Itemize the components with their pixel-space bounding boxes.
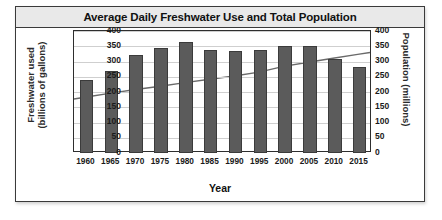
x-axis-tick-label: 1980: [171, 156, 199, 166]
chart-bar: [229, 51, 243, 153]
y-axis-left-title: Freshwater used (billions of gallons): [25, 29, 47, 141]
y-axis-left-tick-label: 150: [95, 102, 121, 111]
x-axis-tick-label: 1960: [71, 156, 99, 166]
y-axis-left-tick-label: 250: [95, 71, 121, 80]
x-axis-tick-label: 1995: [245, 156, 273, 166]
y-axis-left-tick-label: 350: [95, 41, 121, 50]
chart-bar: [154, 48, 168, 153]
y-axis-right-title: Population (millions): [401, 24, 412, 136]
x-axis-tick-label: 2010: [320, 156, 348, 166]
y-axis-right-tick-label: 200: [375, 87, 401, 96]
y-axis-right-tick-label: 400: [375, 26, 401, 35]
y-axis-right-tick-label: 50: [375, 132, 401, 141]
y-axis-right-tick-label: 100: [375, 117, 401, 126]
x-axis-tick-label: 2005: [295, 156, 323, 166]
x-axis-tick-label: 2000: [270, 156, 298, 166]
x-axis-title: Year: [16, 182, 424, 194]
y-axis-left-title-line2: (billions of gallons): [36, 29, 47, 141]
y-axis-right-tick-label: 0: [375, 148, 401, 157]
y-axis-right-tick-label: 150: [375, 102, 401, 111]
x-axis-tick-label: 1985: [196, 156, 224, 166]
y-axis-right-tick-label: 250: [375, 71, 401, 80]
y-axis-left-tick-label: 100: [95, 117, 121, 126]
y-axis-left-tick-label: 200: [95, 87, 121, 96]
chart-title-bar: Average Daily Freshwater Use and Total P…: [16, 7, 424, 28]
x-axis-tick-label: 1965: [96, 156, 124, 166]
y-axis-left-tick-label: 400: [95, 26, 121, 35]
chart-bar: [303, 46, 317, 153]
y-axis-left-title-line1: Freshwater used: [25, 29, 36, 141]
chart-figure-frame: Average Daily Freshwater Use and Total P…: [15, 6, 425, 202]
chart-body: Freshwater used (billions of gallons) Po…: [16, 28, 424, 201]
y-axis-left-tick-label: 300: [95, 56, 121, 65]
x-axis-tick-label: 1975: [146, 156, 174, 166]
y-axis-right-tick-label: 350: [375, 41, 401, 50]
chart-title: Average Daily Freshwater Use and Total P…: [83, 11, 356, 23]
chart-bar: [254, 50, 268, 153]
y-axis-left-tick-label: 50: [95, 132, 121, 141]
x-axis-tick-label: 1990: [220, 156, 248, 166]
y-axis-right-tick-label: 300: [375, 56, 401, 65]
x-axis-tick-label: 2015: [345, 156, 373, 166]
chart-bar: [80, 80, 94, 153]
chart-bar: [129, 55, 143, 153]
chart-bar: [328, 59, 342, 153]
chart-bar: [204, 50, 218, 153]
chart-bar: [353, 67, 367, 153]
chart-bar: [278, 46, 292, 153]
chart-bar: [179, 42, 193, 153]
x-axis-tick-label: 1970: [121, 156, 149, 166]
